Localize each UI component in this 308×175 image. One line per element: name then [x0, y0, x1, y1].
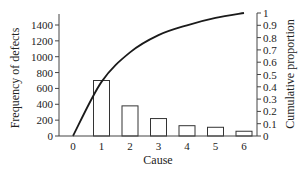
x-tick-label: 1	[99, 140, 105, 152]
left-axis-title: Frequency of defects	[8, 27, 22, 128]
right-tick-label: 0.8	[263, 32, 277, 44]
bar-cause-1	[94, 81, 110, 137]
right-tick-label: 0.2	[263, 105, 277, 117]
pareto-chart: 0200400600800100012001400 00.10.20.30.40…	[0, 0, 308, 175]
right-tick-label: 0.5	[263, 69, 277, 81]
x-axis-title: Cause	[143, 153, 172, 167]
bar-cause-6	[236, 131, 252, 136]
left-axis-ticks: 0200400600800100012001400	[31, 19, 59, 142]
left-tick-label: 200	[37, 114, 54, 126]
right-tick-label: 0.3	[263, 93, 277, 105]
left-tick-label: 1400	[31, 19, 54, 31]
left-tick-label: 800	[37, 67, 54, 79]
right-tick-label: 0.6	[263, 56, 277, 68]
right-axis-title: Cumulative proportion	[283, 19, 297, 129]
left-tick-label: 400	[37, 98, 54, 110]
left-tick-label: 0	[48, 130, 54, 142]
bar-cause-3	[151, 119, 167, 136]
right-tick-label: 0.7	[263, 44, 277, 56]
right-tick-label: 0.1	[263, 118, 277, 130]
x-tick-label: 2	[127, 140, 133, 152]
x-tick-label: 4	[184, 140, 190, 152]
right-tick-label: 0	[263, 130, 269, 142]
left-tick-label: 1200	[31, 35, 54, 47]
right-axis-ticks: 00.10.20.30.40.50.60.70.80.91	[257, 7, 277, 142]
frequency-bars	[94, 81, 253, 137]
x-tick-label: 6	[241, 140, 247, 152]
x-tick-label: 5	[213, 140, 219, 152]
right-tick-label: 0.4	[263, 81, 277, 93]
right-tick-label: 1	[263, 7, 269, 19]
bar-cause-5	[208, 127, 224, 136]
axes	[59, 13, 257, 136]
left-tick-label: 1000	[31, 51, 54, 63]
x-axis-ticks: 0123456	[70, 140, 247, 152]
right-tick-label: 0.9	[263, 19, 277, 31]
bar-cause-4	[179, 126, 195, 136]
x-tick-label: 3	[156, 140, 162, 152]
bar-cause-2	[122, 106, 138, 136]
x-tick-label: 0	[70, 140, 76, 152]
left-tick-label: 600	[37, 82, 54, 94]
